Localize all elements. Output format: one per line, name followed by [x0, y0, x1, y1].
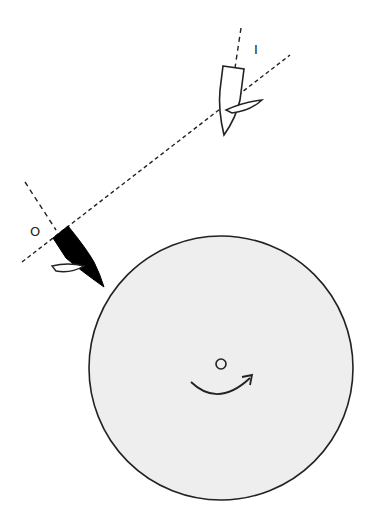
- outer-label: O: [30, 224, 40, 239]
- disc: [89, 236, 353, 500]
- outer-head-body: [53, 226, 104, 287]
- disc-diagram: I O: [0, 0, 375, 526]
- outer-head-fin: [52, 264, 84, 272]
- outer-head-axis: [25, 182, 56, 230]
- inner-head-body: [220, 66, 245, 135]
- inner-label: I: [254, 42, 258, 57]
- outer-head: O: [25, 182, 104, 287]
- inner-head-axis: [235, 28, 241, 68]
